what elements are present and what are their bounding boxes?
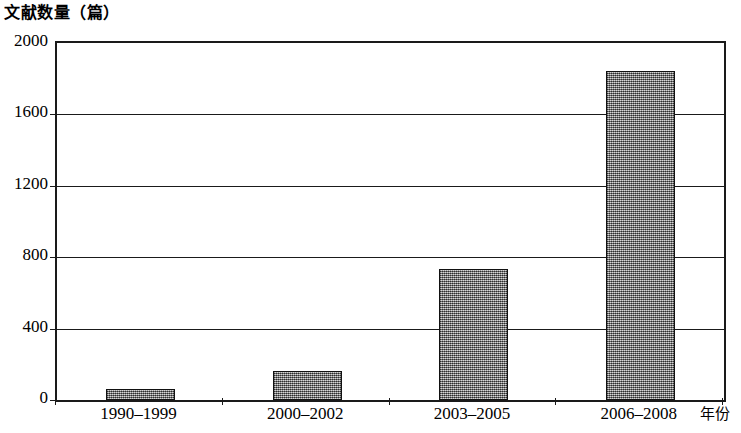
x-tick-mark-1 — [222, 398, 223, 405]
y-tick-mark-800 — [50, 257, 57, 258]
x-tick-label-1990–1999: 1990–1999 — [100, 404, 177, 424]
bar-chart-figure: 文献数量（篇） 0400800120016002000 年份 1990–1999… — [0, 0, 741, 433]
y-tick-label-1200: 1200 — [2, 175, 48, 192]
bar-1990–1999 — [106, 389, 175, 400]
y-tick-label-0: 0 — [2, 389, 48, 406]
x-tick-mark-end — [722, 398, 723, 405]
x-tick-label-2003–2005: 2003–2005 — [434, 404, 511, 424]
x-tick-mark-3 — [555, 398, 556, 405]
y-tick-mark-1200 — [50, 186, 57, 187]
x-axis-title: 年份 — [700, 404, 730, 424]
x-tick-mark-0 — [55, 398, 56, 405]
plot-area — [55, 41, 726, 402]
x-tick-label-2000–2002: 2000–2002 — [267, 404, 344, 424]
x-tick-mark-2 — [389, 398, 390, 405]
chart-title: 文献数量（篇） — [4, 3, 120, 23]
bar-2003–2005 — [439, 269, 508, 400]
y-tick-label-400: 400 — [2, 318, 48, 335]
y-tick-label-1600: 1600 — [2, 103, 48, 120]
bar-2000–2002 — [273, 371, 342, 400]
y-tick-mark-400 — [50, 329, 57, 330]
y-tick-label-2000: 2000 — [2, 32, 48, 49]
y-axis-tick-labels: 0400800120016002000 — [0, 41, 48, 398]
y-tick-mark-1600 — [50, 114, 57, 115]
x-tick-label-2006–2008: 2006–2008 — [600, 404, 677, 424]
y-tick-label-800: 800 — [2, 246, 48, 263]
bar-2006–2008 — [606, 71, 675, 400]
